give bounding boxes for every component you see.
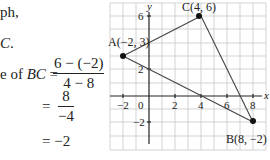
x-tick-label: 8 bbox=[250, 99, 256, 111]
point-a-label: A(−2, 3) bbox=[108, 35, 149, 49]
y-axis-label: y bbox=[146, 0, 152, 12]
point-b bbox=[250, 118, 256, 124]
x-tick-label: −2 bbox=[117, 99, 129, 111]
point-labels: A(−2, 3) B(8, −2) C(4, 6) bbox=[108, 0, 267, 146]
x-tick-label: 0 bbox=[138, 99, 144, 111]
x-tick-label: 4 bbox=[198, 99, 204, 111]
x-axis-label: x bbox=[263, 89, 269, 101]
point-b-label: B(8, −2) bbox=[226, 132, 267, 146]
y-tick-label: 6 bbox=[138, 10, 144, 22]
y-tick-label: −2 bbox=[133, 116, 145, 128]
x-tick-label: 2 bbox=[172, 99, 178, 111]
coordinate-graph: x y −2 0 2 4 6 8 6 2 −2 A(−2, 3) B(8, −2… bbox=[0, 0, 270, 160]
point-c-label: C(4, 6) bbox=[182, 0, 216, 14]
point-a bbox=[120, 53, 126, 59]
